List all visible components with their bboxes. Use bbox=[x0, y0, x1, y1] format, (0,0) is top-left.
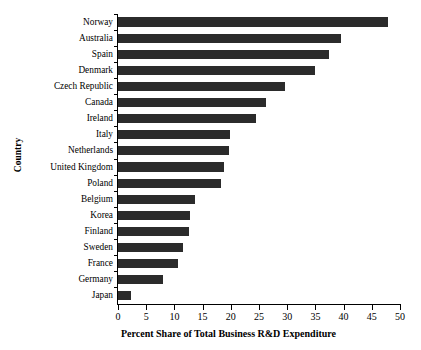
y-axis-tick bbox=[114, 110, 118, 111]
y-axis-tick bbox=[114, 142, 118, 143]
x-axis-tick-label: 35 bbox=[300, 311, 330, 322]
y-axis-tick bbox=[114, 30, 118, 31]
y-axis-tick bbox=[114, 175, 118, 176]
y-axis-tick bbox=[114, 46, 118, 47]
bar bbox=[118, 243, 183, 252]
y-axis-tick bbox=[114, 126, 118, 127]
bar-row: Japan bbox=[118, 288, 400, 304]
category-label: Ireland bbox=[87, 111, 113, 125]
bar-chart: Country NorwayAustraliaSpainDenmarkCzech… bbox=[0, 0, 421, 350]
bar bbox=[118, 259, 178, 268]
category-label: Italy bbox=[96, 127, 113, 141]
y-axis-tick bbox=[114, 255, 118, 256]
bar-row: France bbox=[118, 256, 400, 272]
bar bbox=[118, 227, 189, 236]
bar bbox=[118, 291, 131, 300]
x-axis-tick bbox=[231, 305, 232, 310]
x-axis-tick-label: 0 bbox=[103, 311, 133, 322]
bar-row: Sweden bbox=[118, 240, 400, 256]
bar bbox=[118, 34, 341, 43]
x-axis-tick bbox=[118, 305, 119, 310]
category-label: France bbox=[88, 256, 113, 270]
bar-row: United Kingdom bbox=[118, 159, 400, 175]
y-axis-tick bbox=[114, 14, 118, 15]
bar bbox=[118, 50, 329, 59]
category-label: Korea bbox=[90, 208, 113, 222]
x-axis-tick-label: 25 bbox=[244, 311, 274, 322]
y-axis-tick bbox=[114, 207, 118, 208]
y-axis-title: Country bbox=[13, 115, 23, 195]
category-label: United Kingdom bbox=[50, 160, 113, 174]
x-axis-title: Percent Share of Total Business R&D Expe… bbox=[0, 328, 421, 339]
bar bbox=[118, 211, 190, 220]
bar-row: Germany bbox=[118, 272, 400, 288]
x-axis-tick bbox=[287, 305, 288, 310]
x-axis-tick-label: 50 bbox=[385, 311, 415, 322]
x-axis-tick bbox=[344, 305, 345, 310]
bar-row: Italy bbox=[118, 127, 400, 143]
category-label: Spain bbox=[92, 47, 113, 61]
bar-row: Ireland bbox=[118, 111, 400, 127]
bar bbox=[118, 82, 285, 91]
y-axis-tick bbox=[114, 239, 118, 240]
bar-row: Australia bbox=[118, 30, 400, 46]
bar-row: Norway bbox=[118, 14, 400, 30]
y-axis-tick bbox=[114, 191, 118, 192]
y-axis-tick bbox=[114, 271, 118, 272]
x-axis-tick-label: 30 bbox=[272, 311, 302, 322]
category-label: Germany bbox=[78, 272, 113, 286]
bar-row: Netherlands bbox=[118, 143, 400, 159]
x-axis-tick bbox=[203, 305, 204, 310]
category-label: Sweden bbox=[84, 240, 113, 254]
bar-row: Denmark bbox=[118, 62, 400, 78]
bar-row: Finland bbox=[118, 223, 400, 239]
category-label: Norway bbox=[83, 15, 113, 29]
x-axis-tick bbox=[174, 305, 175, 310]
x-axis-tick-label: 5 bbox=[131, 311, 161, 322]
category-label: Canada bbox=[85, 95, 113, 109]
x-axis-tick-label: 45 bbox=[357, 311, 387, 322]
x-axis-tick bbox=[259, 305, 260, 310]
category-label: Japan bbox=[92, 288, 113, 302]
category-label: Poland bbox=[87, 176, 113, 190]
bar-row: Canada bbox=[118, 95, 400, 111]
bar-row: Czech Republic bbox=[118, 78, 400, 94]
category-label: Australia bbox=[79, 31, 113, 45]
y-axis-tick bbox=[114, 223, 118, 224]
x-axis-tick-label: 15 bbox=[188, 311, 218, 322]
bar-row: Spain bbox=[118, 46, 400, 62]
y-axis-tick bbox=[114, 62, 118, 63]
bar bbox=[118, 162, 224, 171]
x-axis-tick-label: 20 bbox=[216, 311, 246, 322]
x-axis-tick-label: 10 bbox=[159, 311, 189, 322]
x-axis-tick bbox=[146, 305, 147, 310]
bar bbox=[118, 179, 221, 188]
y-axis-tick bbox=[114, 94, 118, 95]
category-label: Netherlands bbox=[68, 143, 113, 157]
bar bbox=[118, 114, 256, 123]
y-axis-tick bbox=[114, 287, 118, 288]
x-axis-tick bbox=[400, 305, 401, 310]
x-axis-tick bbox=[315, 305, 316, 310]
bar bbox=[118, 146, 229, 155]
y-axis-tick bbox=[114, 78, 118, 79]
bar-row: Belgium bbox=[118, 191, 400, 207]
bar bbox=[118, 195, 195, 204]
bar-row: Poland bbox=[118, 175, 400, 191]
category-label: Belgium bbox=[81, 192, 113, 206]
bar bbox=[118, 130, 230, 139]
plot-area: NorwayAustraliaSpainDenmarkCzech Republi… bbox=[118, 14, 400, 304]
category-label: Finland bbox=[85, 224, 113, 238]
x-axis-tick-label: 40 bbox=[329, 311, 359, 322]
bar bbox=[118, 98, 266, 107]
y-axis-tick bbox=[114, 159, 118, 160]
category-label: Czech Republic bbox=[54, 79, 113, 93]
bar bbox=[118, 275, 163, 284]
bar-row: Korea bbox=[118, 207, 400, 223]
x-axis-tick bbox=[372, 305, 373, 310]
category-label: Denmark bbox=[78, 63, 113, 77]
bar bbox=[118, 17, 388, 26]
bar bbox=[118, 66, 315, 75]
